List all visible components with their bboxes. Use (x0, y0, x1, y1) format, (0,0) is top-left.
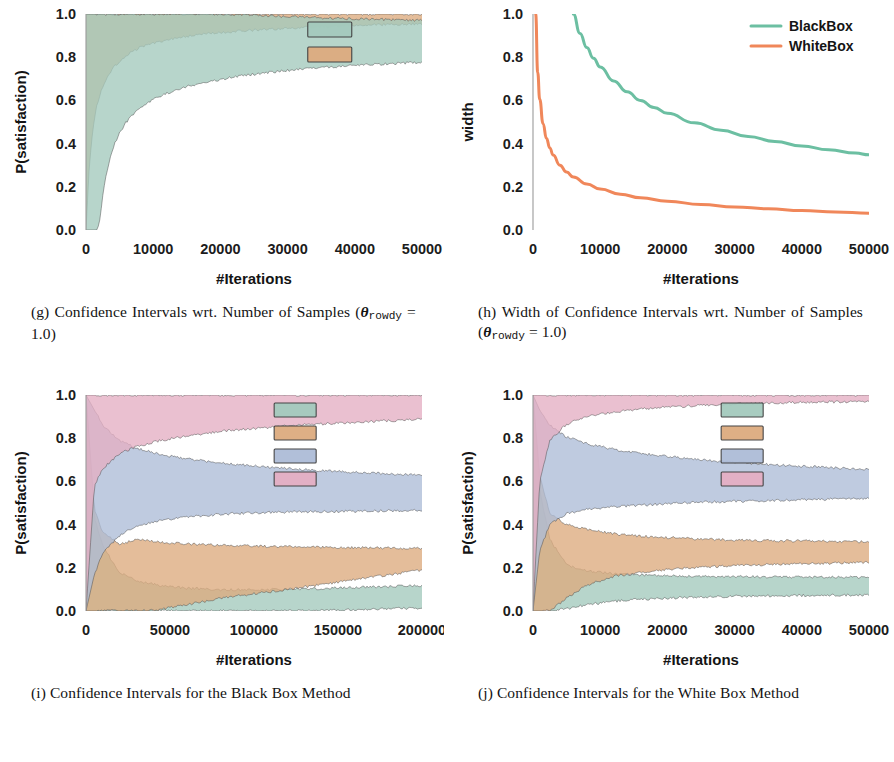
panel-i: 0.00.20.40.60.81.00500001000001500002000… (0, 381, 447, 762)
x-axis-title: #Iterations (216, 651, 292, 668)
legend-label-1: WhiteBox (789, 38, 854, 54)
y-tick-label: 1.0 (502, 6, 522, 22)
y-tick-label: 0.2 (55, 560, 75, 576)
x-tick-label: 10000 (580, 241, 620, 257)
panel-h: 0.00.20.40.60.81.00100002000030000400005… (447, 0, 894, 381)
legend-swatch-3 (721, 472, 763, 486)
x-axis-title: #Iterations (216, 270, 292, 287)
caption-g: (g) Confidence Intervals wrt. Number of … (31, 302, 416, 344)
x-axis-title: #Iterations (663, 270, 739, 287)
plot-area-i: 0.00.20.40.60.81.00500001000001500002000… (4, 381, 444, 677)
x-tick-label: 50000 (848, 241, 888, 257)
caption-line1-i: Confidence Intervals for the Black (50, 684, 268, 701)
y-tick-label: 0.2 (502, 179, 522, 195)
x-tick-label: 0 (81, 622, 89, 638)
plot-area-j: 0.00.20.40.60.81.00100002000030000400005… (451, 381, 891, 677)
figure-grid: 0.00.20.40.60.81.00100002000030000400005… (0, 0, 894, 762)
y-tick-label: 1.0 (502, 387, 522, 403)
y-tick-label: 0.4 (502, 517, 522, 533)
caption-j: (j) Confidence Intervals for the White B… (478, 683, 863, 703)
y-tick-label: 0.8 (55, 49, 75, 65)
caption-subscript-h: rowdy (491, 330, 524, 342)
x-tick-label: 40000 (781, 622, 821, 638)
y-tick-label: 1.0 (55, 6, 75, 22)
x-tick-label: 40000 (334, 241, 374, 257)
y-tick-label: 0.2 (502, 560, 522, 576)
y-tick-label: 0.2 (55, 179, 75, 195)
x-tick-label: 20000 (647, 241, 687, 257)
y-tick-label: 0.8 (502, 430, 522, 446)
caption-tag-h: (h) (478, 303, 496, 320)
legend-swatch-0 (274, 403, 316, 417)
x-tick-label: 0 (528, 622, 536, 638)
caption-line2-pre-i: Box Method (272, 684, 351, 701)
legend-swatch-2 (274, 449, 316, 463)
x-tick-label: 50000 (149, 622, 189, 638)
y-tick-label: 0.6 (502, 473, 522, 489)
caption-line2-pre-g: Samples ( (297, 303, 361, 320)
caption-tag-j: (j) (478, 684, 493, 701)
y-tick-label: 0.0 (502, 603, 522, 619)
caption-tag-g: (g) (31, 303, 49, 320)
caption-line1-h: Width of Confidence Intervals wrt. (502, 303, 729, 320)
x-tick-label: 0 (528, 241, 536, 257)
x-axis-title: #Iterations (663, 651, 739, 668)
caption-theta-g: θ (360, 303, 368, 320)
x-tick-label: 20000 (647, 622, 687, 638)
caption-tag-i: (i) (31, 684, 46, 701)
y-tick-label: 0.4 (55, 136, 75, 152)
y-tick-label: 0.8 (55, 430, 75, 446)
x-tick-label: 30000 (714, 622, 754, 638)
caption-line2-pre-j: Box Method (720, 684, 799, 701)
y-axis-title: P(satisfaction) (459, 451, 476, 554)
caption-line1-g: Confidence Intervals wrt. Number of (54, 303, 291, 320)
chart-svg-g[interactable]: 0.00.20.40.60.81.00100002000030000400005… (4, 0, 444, 296)
legend-swatch-0 (307, 22, 351, 37)
panel-j: 0.00.20.40.60.81.00100002000030000400005… (447, 381, 894, 762)
plot-area-h: 0.00.20.40.60.81.00100002000030000400005… (451, 0, 891, 296)
legend-swatch-1 (307, 47, 351, 62)
chart-svg-i[interactable]: 0.00.20.40.60.81.00500001000001500002000… (4, 381, 444, 677)
y-tick-label: 0.4 (55, 517, 75, 533)
caption-line1-j: Confidence Intervals for the White (497, 684, 716, 701)
y-tick-label: 0.0 (55, 222, 75, 238)
y-tick-label: 0.6 (55, 473, 75, 489)
y-tick-label: 0.4 (502, 136, 522, 152)
legend-swatch-3 (274, 472, 316, 486)
x-tick-label: 150000 (313, 622, 361, 638)
y-axis-title: width (459, 102, 476, 142)
chart-svg-j[interactable]: 0.00.20.40.60.81.00100002000030000400005… (451, 381, 891, 677)
caption-line2-post-h: = 1.0) (525, 323, 567, 340)
legend-label-0: BlackBox (789, 18, 853, 34)
x-tick-label: 20000 (200, 241, 240, 257)
x-tick-label: 50000 (848, 622, 888, 638)
legend-swatch-1 (721, 426, 763, 440)
x-tick-label: 50000 (401, 241, 441, 257)
y-tick-label: 1.0 (55, 387, 75, 403)
caption-subscript-g: rowdy (369, 310, 402, 322)
y-tick-label: 0.0 (502, 222, 522, 238)
y-tick-label: 0.6 (55, 92, 75, 108)
x-tick-label: 10000 (580, 622, 620, 638)
chart-svg-h[interactable]: 0.00.20.40.60.81.00100002000030000400005… (451, 0, 891, 296)
x-tick-label: 100000 (229, 622, 277, 638)
x-tick-label: 200000 (397, 622, 443, 638)
legend-swatch-1 (274, 426, 316, 440)
x-tick-label: 10000 (133, 241, 173, 257)
y-axis-title: P(satisfaction) (12, 70, 29, 173)
panel-g: 0.00.20.40.60.81.00100002000030000400005… (0, 0, 447, 381)
y-tick-label: 0.0 (55, 603, 75, 619)
x-tick-label: 30000 (714, 241, 754, 257)
x-tick-label: 0 (81, 241, 89, 257)
y-axis-title: P(satisfaction) (12, 451, 29, 554)
legend-swatch-2 (721, 449, 763, 463)
y-tick-label: 0.6 (502, 92, 522, 108)
caption-h: (h) Width of Confidence Intervals wrt. N… (478, 302, 863, 344)
x-tick-label: 40000 (781, 241, 821, 257)
caption-i: (i) Confidence Intervals for the Black B… (31, 683, 416, 703)
x-tick-label: 30000 (267, 241, 307, 257)
legend-swatch-0 (721, 403, 763, 417)
y-tick-label: 0.8 (502, 49, 522, 65)
plot-area-g: 0.00.20.40.60.81.00100002000030000400005… (4, 0, 444, 296)
